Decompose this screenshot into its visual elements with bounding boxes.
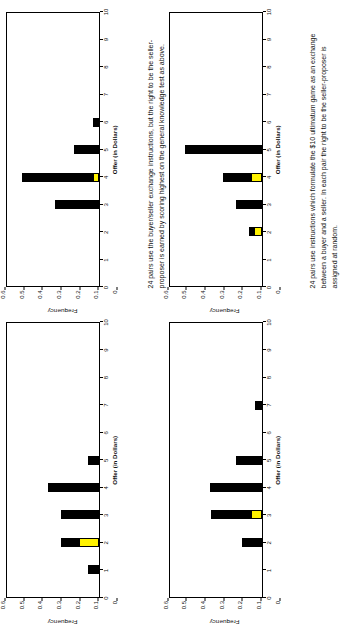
bar-segment-main xyxy=(236,200,261,209)
x-tick-label: 8 xyxy=(266,65,272,68)
y-axis-title: Frequency xyxy=(169,616,281,629)
caption-a-placeholder xyxy=(145,323,156,630)
y-tick-label: 0.4 xyxy=(200,601,206,609)
x-tick-label: 1 xyxy=(103,258,109,261)
x-tick-label: 8 xyxy=(103,65,109,68)
bar-segment-main xyxy=(242,538,261,547)
bar-segment-main xyxy=(22,173,94,182)
y-tick-label: 0.2 xyxy=(75,601,81,609)
chart-bottom-left: Frequency 00.10.20.30.40.50.6 0123456789… xyxy=(169,323,281,630)
x-tick-label: 10 xyxy=(266,9,272,16)
x-axis-ticks: 012345678910 xyxy=(100,323,110,599)
y-tick-mark xyxy=(42,288,43,291)
x-tick-label: 1 xyxy=(103,569,109,572)
y-tick-mark xyxy=(5,598,6,601)
bar-segment-main xyxy=(55,200,99,209)
panel-top-left: Frequency 00.10.20.30.40.50.6 0123456789… xyxy=(6,319,118,630)
bar-offer-4 xyxy=(22,173,99,182)
x-tick-label: 5 xyxy=(103,459,109,462)
chart-row-top: Frequency 00.10.20.30.40.50.6 0123456789… xyxy=(6,8,134,629)
y-axis-ticks: 00.10.20.30.40.50.6 xyxy=(6,598,118,616)
caption-b-placeholder xyxy=(307,323,318,630)
x-tick-label: 7 xyxy=(103,93,109,96)
y-tick-label: 0.1 xyxy=(93,291,99,299)
caption-panel-left-2 xyxy=(300,319,318,630)
bar-offer-3 xyxy=(55,200,99,209)
x-axis-title: Offer (in Dollars) xyxy=(274,12,281,288)
chart-bottom-right: Frequency 00.10.20.30.40.50.6 0123456789… xyxy=(169,12,281,319)
y-tick-mark xyxy=(260,288,261,291)
x-axis-ticks: 012345678910 xyxy=(100,12,110,288)
x-tick-label: 7 xyxy=(266,93,272,96)
y-tick-label: 0.2 xyxy=(237,601,243,609)
chart-top-left: Frequency 00.10.20.30.40.50.6 0123456789… xyxy=(6,323,118,630)
x-tick-label: 2 xyxy=(266,541,272,544)
y-tick-mark xyxy=(23,598,24,601)
y-tick-mark xyxy=(79,598,80,601)
x-tick-label: 9 xyxy=(103,38,109,41)
caption-row-bottom: 24 pairs use instructions which formulat… xyxy=(300,8,340,629)
bar-segment-main xyxy=(88,565,99,574)
x-axis-title: Offer (in Dollars) xyxy=(274,323,281,599)
y-tick-mark xyxy=(242,598,243,601)
y-tick-label: 0 xyxy=(112,601,118,604)
y-tick-mark xyxy=(186,598,187,601)
y-tick-mark xyxy=(98,598,99,601)
y-tick-mark xyxy=(204,288,205,291)
y-axis-title: Frequency xyxy=(6,616,118,629)
y-tick-mark xyxy=(79,288,80,291)
x-tick-label: 1 xyxy=(266,569,272,572)
x-tick-label: 0 xyxy=(103,596,109,599)
y-tick-label: 0.5 xyxy=(181,601,187,609)
y-tick-label: 0.4 xyxy=(37,601,43,609)
plot-area xyxy=(169,12,263,288)
bar-segment-main xyxy=(223,173,252,182)
x-tick-label: 6 xyxy=(266,431,272,434)
y-tick-label: 0.4 xyxy=(37,291,43,299)
x-axis-title: Offer (in Dollars) xyxy=(111,12,118,288)
x-tick-label: 9 xyxy=(266,38,272,41)
y-tick-mark xyxy=(167,598,168,601)
bar-segment-main xyxy=(210,483,261,492)
y-tick-label: 0.1 xyxy=(256,601,262,609)
chart-top-right: Frequency 00.10.20.30.40.50.6 0123456789… xyxy=(6,12,118,319)
plot-area xyxy=(6,323,100,599)
bar-offer-5 xyxy=(236,456,261,465)
bar-segment-main xyxy=(185,145,262,154)
bar-offer-4 xyxy=(48,483,99,492)
bar-segment-main xyxy=(236,456,261,465)
x-tick-label: 9 xyxy=(266,348,272,351)
x-tick-label: 9 xyxy=(103,348,109,351)
bar-offer-3 xyxy=(236,200,261,209)
document-page: Frequency 00.10.20.30.40.50.6 0123456789… xyxy=(0,0,344,637)
bar-offer-2 xyxy=(249,227,261,236)
x-tick-label: 8 xyxy=(266,376,272,379)
caption-panel-left xyxy=(138,319,156,630)
y-tick-label: 0.6 xyxy=(163,601,169,609)
x-tick-label: 3 xyxy=(266,203,272,206)
x-tick-label: 4 xyxy=(266,486,272,489)
y-tick-mark xyxy=(98,288,99,291)
bar-offer-1 xyxy=(88,565,99,574)
bar-segment-main xyxy=(61,538,80,547)
y-tick-mark xyxy=(242,288,243,291)
x-tick-label: 2 xyxy=(266,231,272,234)
y-axis-title: Frequency xyxy=(6,306,118,319)
y-axis-title-text: Frequency xyxy=(209,308,239,315)
plot-wrapper: 012345678910 Offer (in Dollars) xyxy=(169,323,281,599)
plot-area xyxy=(169,323,263,599)
y-tick-mark xyxy=(42,598,43,601)
x-tick-label: 10 xyxy=(266,319,272,326)
x-tick-label: 0 xyxy=(266,286,272,289)
y-tick-mark xyxy=(186,288,187,291)
x-tick-label: 1 xyxy=(266,258,272,261)
y-tick-label: 0.6 xyxy=(0,291,6,299)
y-tick-label: 0.1 xyxy=(93,601,99,609)
y-tick-label: 0.3 xyxy=(56,291,62,299)
y-axis-title-text: Frequency xyxy=(47,619,77,626)
caption-row-top: 24 pairs use the buyer/seller exchange i… xyxy=(138,8,167,629)
y-axis-title-text: Frequency xyxy=(47,308,77,315)
x-tick-label: 5 xyxy=(266,459,272,462)
y-tick-label: 0 xyxy=(275,601,281,604)
bar-offer-5 xyxy=(88,456,99,465)
